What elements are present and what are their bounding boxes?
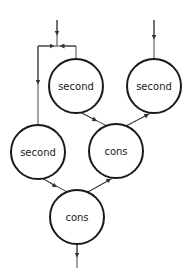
- node-label: second: [136, 81, 172, 92]
- node-label: second: [58, 81, 94, 92]
- node-label: cons: [104, 146, 127, 157]
- node-second-top-left: second: [49, 59, 103, 113]
- edge-n4-to-n5: [88, 178, 113, 192]
- edge-n1-to-n4: [80, 112, 107, 126]
- node-label: cons: [65, 212, 88, 223]
- node-second-middle-left: second: [11, 125, 65, 179]
- node-label: second: [20, 147, 56, 158]
- dataflow-diagram: second second second cons cons: [0, 0, 190, 280]
- edge-n2-to-n4: [126, 113, 151, 126]
- node-second-top-right: second: [127, 59, 181, 113]
- edge-n3-to-n5: [42, 178, 67, 192]
- node-cons-middle-right: cons: [89, 124, 143, 178]
- node-cons-bottom: cons: [50, 190, 104, 244]
